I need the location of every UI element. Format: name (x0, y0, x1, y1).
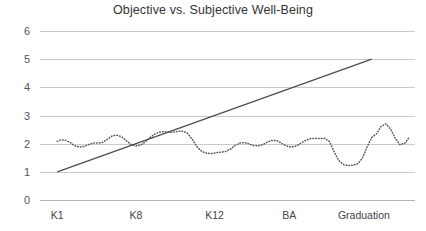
y-tick-label-1: 1 (8, 166, 30, 178)
y-tick-label-2: 2 (8, 138, 30, 150)
x-tick-label-k12: K12 (205, 209, 224, 221)
objective-trend-line (57, 59, 371, 172)
y-tick-label-5: 5 (8, 53, 30, 65)
y-tick-label-4: 4 (8, 81, 30, 93)
plot-area: 0123456 K1K8K12BAGraduation (0, 0, 426, 231)
data-series-group (57, 59, 409, 172)
chart-svg-layer (0, 0, 426, 231)
x-tick-label-graduation: Graduation (338, 209, 390, 221)
x-tick-label-k8: K8 (129, 209, 142, 221)
x-tick-label-ba: BA (282, 209, 296, 221)
chart-container: Objective vs. Subjective Well-Being 0123… (0, 0, 426, 231)
x-tick-label-k1: K1 (51, 209, 64, 221)
gridlines-group (40, 32, 415, 201)
y-tick-label-6: 6 (8, 25, 30, 37)
y-tick-label-3: 3 (8, 110, 30, 122)
y-tick-label-0: 0 (8, 194, 30, 206)
